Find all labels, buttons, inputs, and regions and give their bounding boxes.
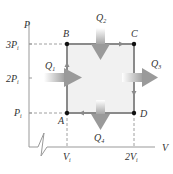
p-axis-label: P bbox=[23, 19, 30, 30]
label-a: A bbox=[57, 115, 65, 126]
label-q1: Q1 bbox=[45, 60, 55, 72]
point-b bbox=[65, 42, 69, 46]
label-q2: Q2 bbox=[96, 12, 106, 24]
tick-vi: Vi bbox=[63, 151, 71, 163]
point-c bbox=[132, 42, 136, 46]
label-q3: Q3 bbox=[151, 58, 161, 70]
label-c: C bbox=[131, 28, 138, 39]
tick-2pi: 2Pi bbox=[6, 73, 19, 85]
tick-pi: Pi bbox=[13, 107, 22, 119]
point-d bbox=[132, 111, 136, 115]
label-d: D bbox=[139, 108, 148, 119]
label-q4: Q4 bbox=[94, 132, 104, 144]
tick-3pi: 3Pi bbox=[5, 39, 19, 51]
tick-2vi: 2Vi bbox=[125, 151, 138, 163]
pv-diagram: B C A D P V 3Pi 2Pi Pi Vi 2Vi Q1 Q2 Q3 Q… bbox=[0, 0, 173, 174]
v-axis-label: V bbox=[162, 142, 170, 153]
label-b: B bbox=[63, 28, 69, 39]
point-a bbox=[65, 111, 69, 115]
